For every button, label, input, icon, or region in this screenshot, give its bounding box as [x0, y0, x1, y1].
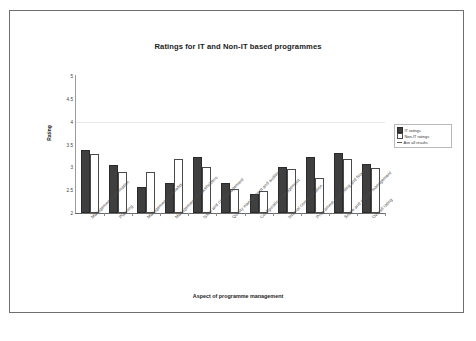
x-axis-tick [245, 213, 246, 216]
legend-swatch-open-icon [397, 133, 403, 139]
bar-nonit[interactable] [343, 159, 352, 213]
bar-it[interactable] [193, 157, 202, 213]
bar-group [76, 76, 104, 213]
legend-label: Non-IT ratings [405, 134, 430, 139]
bar-group [301, 76, 329, 213]
x-axis-tick [188, 213, 189, 216]
bar-it[interactable] [362, 164, 371, 213]
bar-group [160, 76, 188, 213]
bar-nonit[interactable] [118, 172, 127, 213]
x-axis-tick [160, 213, 161, 216]
bar-it[interactable] [81, 150, 90, 213]
y-axis-tick-label: 4 [53, 119, 73, 124]
y-axis-ticks: 22.533.544.55 [51, 76, 73, 213]
bar-nonit[interactable] [259, 191, 268, 213]
bar-nonit[interactable] [90, 154, 99, 213]
y-axis-tick-label: 2.5 [53, 188, 73, 193]
x-axis-tick [132, 213, 133, 216]
bar-group [132, 76, 160, 213]
legend-label: Ave all results [404, 140, 428, 145]
bar-nonit[interactable] [174, 159, 183, 213]
bar-it[interactable] [221, 183, 230, 213]
x-axis-tick [385, 213, 386, 216]
bar-it[interactable] [306, 157, 315, 213]
bar-it[interactable] [334, 153, 343, 213]
chart-title: Ratings for IT and Non-IT based programm… [0, 42, 476, 51]
bar-nonit[interactable] [230, 189, 239, 213]
y-axis-tick-label: 5 [53, 74, 73, 79]
y-axis-tick-label: 3 [53, 165, 73, 170]
bar-group [357, 76, 385, 213]
bar-it[interactable] [137, 187, 146, 213]
legend-swatch-line-icon [397, 142, 402, 143]
bar-group [245, 76, 273, 213]
bar-group [188, 76, 216, 213]
bar-it[interactable] [250, 194, 259, 213]
legend-label: IT ratings [405, 128, 421, 133]
x-axis-tick [301, 213, 302, 216]
x-axis-tick [216, 213, 217, 216]
y-axis-tick-label: 3.5 [53, 142, 73, 147]
bar-nonit[interactable] [315, 178, 324, 213]
legend-item[interactable]: Ave all results [397, 139, 449, 145]
x-axis-title: Aspect of programme management [0, 293, 476, 299]
x-axis-line [75, 213, 386, 214]
bar-it[interactable] [165, 183, 174, 213]
x-axis-tick [273, 213, 274, 216]
x-axis-tick [357, 213, 358, 216]
bar-group [329, 76, 357, 213]
bar-group [273, 76, 301, 213]
plot-area [76, 76, 385, 213]
bar-nonit[interactable] [371, 168, 380, 213]
bar-nonit[interactable] [202, 167, 211, 213]
bar-nonit[interactable] [146, 172, 155, 213]
bar-nonit[interactable] [287, 169, 296, 213]
bar-group [216, 76, 244, 213]
bar-it[interactable] [278, 167, 287, 213]
bar-group [104, 76, 132, 213]
chart-legend: IT ratingsNon-IT ratingsAve all results [394, 124, 452, 148]
x-axis-tick [329, 213, 330, 216]
y-axis-tick-label: 4.5 [53, 96, 73, 101]
bar-it[interactable] [109, 165, 118, 213]
x-axis-tick [104, 213, 105, 216]
y-axis-tick-label: 2 [53, 211, 73, 216]
